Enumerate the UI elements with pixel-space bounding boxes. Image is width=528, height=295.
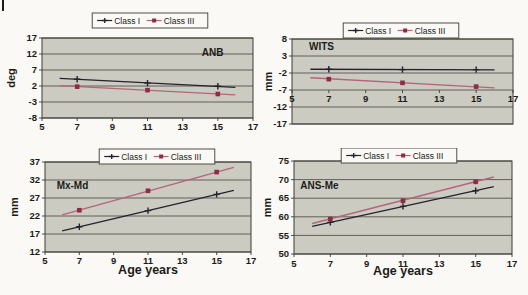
svg-text:13: 13 xyxy=(434,93,445,104)
svg-text:Class I: Class I xyxy=(114,16,140,26)
svg-text:75: 75 xyxy=(278,155,289,166)
svg-text:8: 8 xyxy=(282,33,287,44)
svg-text:12: 12 xyxy=(29,246,40,257)
svg-text:Class III: Class III xyxy=(415,26,446,36)
svg-text:7: 7 xyxy=(75,121,80,132)
legend: Class IClass III xyxy=(92,13,208,28)
legend: Class IClass III xyxy=(341,148,457,163)
svg-text:7: 7 xyxy=(32,64,37,75)
y-axis-title: mm xyxy=(264,72,274,92)
svg-text:17: 17 xyxy=(26,32,37,43)
chart-svg-mx-md: 37322722171257911131517Class IClass IIIM… xyxy=(0,148,264,295)
y-axis-title: deg xyxy=(5,68,17,88)
marker-square xyxy=(146,189,151,194)
legend: Class IClass III xyxy=(99,149,215,164)
marker-square xyxy=(216,92,221,97)
chart-anb: 171272-3-857911131517Class IClass IIIANB… xyxy=(0,0,264,148)
svg-text:-2: -2 xyxy=(279,67,287,78)
svg-text:17: 17 xyxy=(246,255,257,266)
svg-text:11: 11 xyxy=(142,121,153,132)
svg-text:17: 17 xyxy=(507,258,518,269)
plot-area xyxy=(45,162,251,252)
svg-text:13: 13 xyxy=(177,121,188,132)
svg-text:17: 17 xyxy=(29,228,40,239)
svg-text:-8: -8 xyxy=(29,112,37,123)
svg-text:17: 17 xyxy=(508,93,519,104)
y-axis-labels: 171272-3-8 xyxy=(26,32,37,123)
marker-square xyxy=(401,199,406,204)
marker-square xyxy=(214,170,219,175)
svg-text:7: 7 xyxy=(326,93,331,104)
chart-mxmd: 37322722171257911131517Class IClass IIIM… xyxy=(0,148,264,295)
marker-square xyxy=(328,217,333,222)
figure-page: 171272-3-857911131517Class IClass IIIANB… xyxy=(0,0,528,295)
svg-text:27: 27 xyxy=(29,192,40,203)
chart-annotation: WITS xyxy=(309,41,334,52)
marker-square xyxy=(145,88,150,93)
svg-text:Class I: Class I xyxy=(363,151,389,161)
svg-text:32: 32 xyxy=(29,174,40,185)
chart-wits: 83-2-7-12-1757911131517Class IClass IIIW… xyxy=(264,0,528,148)
chart-annotation: ANS-Me xyxy=(300,180,339,191)
svg-text:-17: -17 xyxy=(273,118,287,129)
x-axis-labels: 57911131517 xyxy=(39,118,258,132)
svg-text:-3: -3 xyxy=(29,96,37,107)
svg-text:15: 15 xyxy=(213,121,224,132)
svg-text:12: 12 xyxy=(26,48,37,59)
svg-text:60: 60 xyxy=(278,211,289,222)
y-axis-labels: 757065605550 xyxy=(278,155,289,259)
svg-text:11: 11 xyxy=(397,93,408,104)
svg-text:Class III: Class III xyxy=(171,152,202,162)
chart-ansme: 75706560555057911131517Class IClass IIIA… xyxy=(264,148,528,295)
svg-text:70: 70 xyxy=(278,174,289,185)
marker-square xyxy=(75,84,80,89)
y-axis-labels: 83-2-7-12-17 xyxy=(273,33,287,129)
svg-text:9: 9 xyxy=(363,93,368,104)
marker-square xyxy=(327,77,332,82)
y-axis-title: mm xyxy=(264,198,273,218)
x-axis-title: Age years xyxy=(118,263,178,277)
svg-text:55: 55 xyxy=(278,230,289,241)
chart-annotation: Mx-Md xyxy=(57,180,89,191)
marker-square xyxy=(77,208,82,213)
svg-text:17: 17 xyxy=(248,121,259,132)
svg-text:65: 65 xyxy=(278,192,289,203)
svg-text:3: 3 xyxy=(282,50,287,61)
svg-text:9: 9 xyxy=(364,258,369,269)
chart-svg-anb: 171272-3-857911131517Class IClass IIIANB… xyxy=(0,0,264,148)
svg-text:Class I: Class I xyxy=(121,152,147,162)
svg-text:7: 7 xyxy=(328,258,333,269)
svg-text:5: 5 xyxy=(39,121,45,132)
svg-text:15: 15 xyxy=(211,255,222,266)
svg-text:5: 5 xyxy=(291,258,297,269)
svg-text:Class III: Class III xyxy=(164,16,195,26)
svg-text:5: 5 xyxy=(42,255,48,266)
marker-square xyxy=(474,84,479,89)
chart-annotation: ANB xyxy=(202,47,224,58)
chart-svg-ans-me: 75706560555057911131517Class IClass IIIA… xyxy=(264,148,528,295)
y-axis-labels: 373227221712 xyxy=(29,156,40,257)
svg-text:-7: -7 xyxy=(279,84,287,95)
svg-text:37: 37 xyxy=(29,156,40,167)
svg-text:5: 5 xyxy=(289,93,295,104)
svg-text:Class I: Class I xyxy=(365,26,391,36)
svg-text:2: 2 xyxy=(32,80,37,91)
legend: Class IClass III xyxy=(343,23,459,38)
y-axis-title: mm xyxy=(8,197,20,217)
svg-text:22: 22 xyxy=(29,210,40,221)
marker-square xyxy=(400,81,405,86)
svg-text:15: 15 xyxy=(470,258,481,269)
x-axis-title: Age years xyxy=(373,264,433,278)
svg-text:9: 9 xyxy=(111,255,116,266)
svg-text:-12: -12 xyxy=(273,101,287,112)
svg-text:9: 9 xyxy=(110,121,115,132)
chart-svg-wits: 83-2-7-12-1757911131517Class IClass IIIW… xyxy=(264,0,528,148)
svg-text:Class III: Class III xyxy=(413,151,444,161)
svg-text:7: 7 xyxy=(77,255,82,266)
marker-square xyxy=(473,180,478,185)
svg-text:13: 13 xyxy=(434,258,445,269)
svg-text:15: 15 xyxy=(471,93,482,104)
svg-text:13: 13 xyxy=(177,255,188,266)
svg-text:50: 50 xyxy=(278,248,289,259)
